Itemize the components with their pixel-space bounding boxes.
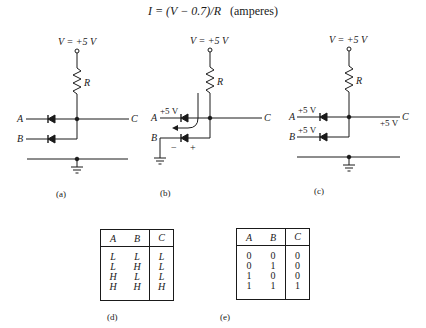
resistor-icon xyxy=(73,68,81,94)
supply-label-a: V = +5 V xyxy=(58,36,98,47)
diode-a-icon xyxy=(320,113,327,121)
resistor-label-a: R xyxy=(83,77,90,88)
input-a-voltage-b: +5 V xyxy=(160,106,179,116)
ground-icon xyxy=(71,167,83,173)
header-b: B xyxy=(261,232,285,243)
circuit-a xyxy=(26,49,129,173)
output-voltage-c: +5 V xyxy=(380,118,399,128)
caption-e: (e) xyxy=(220,312,230,322)
caption-a: (a) xyxy=(56,189,66,199)
ground-icon xyxy=(154,158,166,164)
cell: H xyxy=(109,282,116,292)
input-a-label-b: A xyxy=(150,112,158,123)
input-b-label-c: B xyxy=(289,131,295,142)
diode-a-icon xyxy=(181,114,188,122)
diode-b-icon xyxy=(320,133,327,141)
diode-a-icon xyxy=(48,115,55,123)
header-c: C xyxy=(285,229,309,245)
plus-sign-b: + xyxy=(190,142,196,153)
cell: 1 xyxy=(295,281,300,291)
cell: H xyxy=(158,282,165,292)
current-flow-arrow xyxy=(176,93,198,128)
input-a-voltage-c: +5 V xyxy=(298,105,317,115)
cell: 1 xyxy=(271,281,276,291)
input-b-label-a: B xyxy=(17,133,23,144)
header-c: C xyxy=(149,230,173,246)
caption-c: (c) xyxy=(314,186,324,196)
output-label-b: C xyxy=(264,112,271,123)
minus-sign-b: − xyxy=(171,142,177,153)
header-a: A xyxy=(101,233,125,244)
output-label-c: C xyxy=(402,111,409,122)
resistor-icon xyxy=(206,67,214,93)
output-label-a: C xyxy=(131,113,138,124)
supply-label-b: V = +5 V xyxy=(190,35,230,46)
supply-label-c: V = +5 V xyxy=(329,34,369,45)
input-a-label-c: A xyxy=(288,111,296,122)
supply-terminal-icon xyxy=(75,49,79,53)
table-header: A B C xyxy=(101,230,173,247)
supply-terminal-icon xyxy=(347,47,351,51)
svg-text:V = +5 V: V = +5 V xyxy=(58,36,98,47)
supply-terminal-icon xyxy=(208,48,212,52)
caption-b: (b) xyxy=(160,188,171,198)
cell: H xyxy=(133,282,140,292)
diode-b-icon xyxy=(181,134,188,142)
resistor-icon xyxy=(345,66,353,92)
input-b-voltage-c: +5 V xyxy=(298,125,317,135)
resistor-label-c: R xyxy=(355,75,362,86)
truth-table-logic-levels: A B C L L H H L H L H L L L H xyxy=(100,229,174,301)
truth-table-binary: A B C 0 0 1 1 0 1 0 1 0 0 0 1 xyxy=(236,228,310,300)
diode-b-icon xyxy=(48,135,55,143)
input-b-label-b: B xyxy=(151,132,157,143)
ground-icon xyxy=(343,165,355,171)
input-a-label-a: A xyxy=(16,113,24,124)
resistor-label-b: R xyxy=(216,76,223,87)
cell: 1 xyxy=(247,281,252,291)
circuit-diagrams: V = +5 V R A B C (a) V = +5 V R +5 V A B… xyxy=(0,0,426,328)
header-b: B xyxy=(125,233,149,244)
header-a: A xyxy=(237,232,261,243)
table-header: A B C xyxy=(237,229,309,246)
caption-d: (d) xyxy=(107,312,118,322)
